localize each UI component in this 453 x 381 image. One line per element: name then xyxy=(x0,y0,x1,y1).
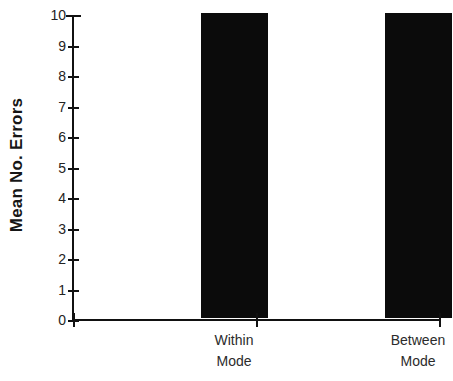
x-axis-tick-mark xyxy=(439,313,441,327)
plot-area xyxy=(72,15,441,320)
y-axis-tick-mark xyxy=(68,168,79,170)
y-axis-tick-mark xyxy=(68,137,79,139)
x-axis-category-label-line2: Mode xyxy=(174,351,294,372)
y-axis-label-text: Mean No. Errors xyxy=(7,98,27,232)
y-axis-tick-label: 3 xyxy=(36,222,66,236)
x-axis-category-label-line1: Between xyxy=(358,330,453,351)
y-axis-tick-label: 8 xyxy=(36,69,66,83)
y-axis-label: Mean No. Errors xyxy=(0,0,34,330)
y-axis-tick-mark xyxy=(68,259,79,261)
y-axis-tick-mark xyxy=(68,198,79,200)
y-axis-tick-label: 6 xyxy=(36,130,66,144)
y-axis-tick-mark xyxy=(68,46,79,48)
y-axis-tick-label: 5 xyxy=(36,161,66,175)
y-axis-tick-label: 1 xyxy=(36,283,66,297)
y-axis-tick-label: 4 xyxy=(36,191,66,205)
y-axis-tick-labels: 109876543210 xyxy=(36,0,66,381)
bar xyxy=(385,13,452,318)
y-axis-tick-label: 0 xyxy=(36,313,66,327)
y-axis-tick-label: 10 xyxy=(36,8,66,22)
x-axis-category-label-line2: Mode xyxy=(358,351,453,372)
bar-chart: Mean No. Errors 109876543210 WithinModeB… xyxy=(0,0,453,381)
y-axis-tick-label: 7 xyxy=(36,100,66,114)
x-axis-tick-mark xyxy=(73,313,75,327)
y-axis-tick-mark xyxy=(68,76,79,78)
bar xyxy=(201,13,268,318)
y-axis-tick-label: 2 xyxy=(36,252,66,266)
x-axis-category-label-line1: Within xyxy=(174,330,294,351)
y-axis-tick-mark xyxy=(68,290,79,292)
y-axis-tick-label: 9 xyxy=(36,39,66,53)
x-axis-category-labels: WithinModeBetweenMode xyxy=(72,330,441,381)
y-axis-tick-mark xyxy=(66,15,81,17)
x-axis-category-label: WithinMode xyxy=(174,330,294,372)
x-axis-tick-mark xyxy=(256,313,258,327)
x-axis-category-label: BetweenMode xyxy=(358,330,453,372)
y-axis-tick-mark xyxy=(68,229,79,231)
y-axis-tick-mark xyxy=(68,107,79,109)
